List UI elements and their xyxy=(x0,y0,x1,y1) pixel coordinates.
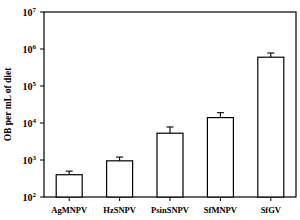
bar-sfmnpv xyxy=(207,113,233,197)
y-tick-label: 106 xyxy=(23,43,37,55)
bar-sfgv xyxy=(258,53,284,197)
bar-chart: 102103104105106107AgMNPVHzSNPVPsinSNPVSf… xyxy=(0,0,300,220)
y-tick-label: 103 xyxy=(23,154,37,166)
y-tick-label: 105 xyxy=(23,80,37,92)
x-tick-label: AgMNPV xyxy=(51,205,88,215)
bar-hzsnpv xyxy=(107,157,133,197)
x-tick-label: PsinSNPV xyxy=(151,205,190,215)
y-tick-label: 102 xyxy=(23,191,37,203)
y-axis-label: OB per mL of diet xyxy=(3,67,13,142)
x-tick-label: SfMNPV xyxy=(204,205,238,215)
bars xyxy=(56,53,284,197)
axis-labels: 102103104105106107AgMNPVHzSNPVPsinSNPVSf… xyxy=(3,6,282,216)
x-tick-label: HzSNPV xyxy=(103,205,136,215)
bar-psinsnpv xyxy=(157,127,183,197)
x-tick-label: SfGV xyxy=(261,205,282,215)
y-tick-label: 104 xyxy=(23,117,37,129)
bar-agmnpv xyxy=(56,171,82,197)
y-tick-label: 107 xyxy=(23,6,37,18)
